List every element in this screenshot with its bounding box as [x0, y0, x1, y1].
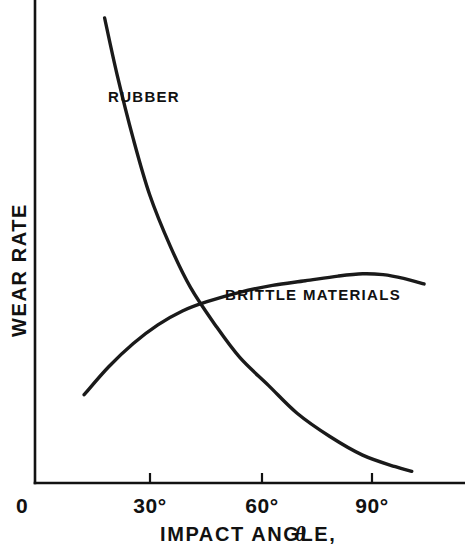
x-axis-title: IMPACT ANGLE, θ — [160, 522, 336, 546]
x-tick-label-90: 90° — [355, 494, 388, 517]
y-axis-title: WEAR RATE — [8, 203, 30, 337]
series-label-brittle-materials: BRITTLE MATERIALS — [225, 286, 401, 303]
x-tick-label-30: 30° — [133, 494, 166, 517]
x-tick-label-60: 60° — [245, 494, 278, 517]
theta-symbol: θ — [295, 522, 306, 546]
wear-rate-vs-impact-angle-chart: 0 30° 60° 90° IMPACT ANGLE, θ WEAR RATE … — [0, 0, 465, 546]
x-tick-label-0: 0 — [16, 494, 28, 517]
x-axis-title-text: IMPACT ANGLE, — [160, 523, 336, 545]
plot-background — [0, 0, 465, 546]
chart-figure: 0 30° 60° 90° IMPACT ANGLE, θ WEAR RATE … — [0, 0, 465, 546]
series-label-rubber: RUBBER — [108, 88, 180, 105]
